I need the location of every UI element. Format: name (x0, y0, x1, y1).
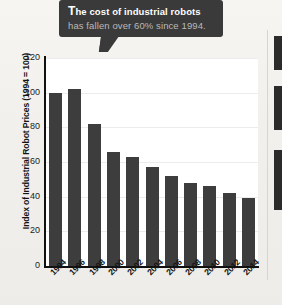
bar (146, 167, 159, 266)
y-tick-label: 60 (2, 156, 40, 166)
y-tick-label: 80 (2, 121, 40, 131)
y-tick-label: 20 (2, 225, 40, 235)
y-tick-label: 120 (2, 52, 40, 62)
callout-bubble: The cost of industrial robots has fallen… (59, 0, 223, 37)
callout-text: The cost of industrial robots has fallen… (68, 5, 215, 32)
bar (165, 176, 178, 266)
callout-lead-text: he cost of industrial robots (75, 6, 200, 17)
bar (223, 193, 236, 266)
x-axis-tick-labels: 1994199619982000200220042006200820102012… (46, 270, 261, 304)
plot-area (46, 58, 258, 266)
bar (184, 183, 197, 266)
y-tick-label: 0 (2, 260, 40, 270)
bar-chart: Index of Industrial Robot Prices (1994 =… (0, 48, 282, 305)
bar (203, 186, 216, 266)
bar (107, 152, 120, 266)
y-tick-label: 40 (2, 191, 40, 201)
bar (88, 124, 101, 266)
bar (242, 198, 255, 266)
callout-rest-text: has fallen over 60% since 1994. (68, 20, 206, 31)
gridline (46, 58, 258, 59)
y-axis-tick-labels: 020406080100120 (0, 48, 40, 278)
chart-page: The cost of industrial robots has fallen… (0, 0, 282, 305)
y-axis-line (44, 56, 46, 268)
y-tick-label: 100 (2, 87, 40, 97)
bar (68, 89, 81, 266)
bar (126, 157, 139, 266)
bar (49, 93, 62, 266)
